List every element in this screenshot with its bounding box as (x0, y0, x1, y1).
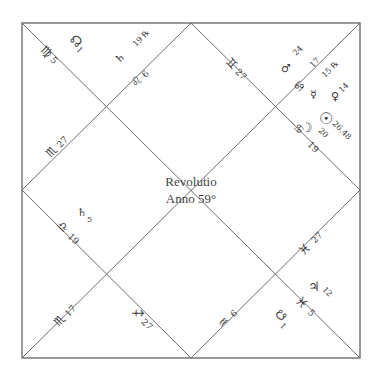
svg-text:15 ℞: 15 ℞ (320, 59, 340, 79)
cancer-cusp-degree: 17 (308, 56, 322, 70)
saturn-label: ♄ (112, 50, 128, 66)
svg-text:19: 19 (66, 231, 81, 246)
astrological-chart: Revolutio Anno 59° ☊ 1 ♍ 5 ♄ 19 ℞ ♌ 6 ♊ … (0, 0, 380, 377)
north-node-label: ☊ 1 (66, 32, 89, 55)
saturn-2-degree: 5 (87, 215, 92, 224)
svg-text:19: 19 (305, 139, 320, 154)
svg-text:14: 14 (337, 81, 351, 95)
saturn-icon: ♄ (77, 206, 87, 219)
libra-cusp-label: ♎ 19 (54, 218, 84, 248)
saturn-degree: 19 ℞ (131, 28, 151, 48)
svg-text:17: 17 (63, 303, 78, 318)
aquarius-cusp-label: ♒ 6 (215, 306, 240, 331)
pisces-cusp-2-label: ♓ 5 (292, 293, 319, 320)
jupiter-icon: ♃ (308, 279, 320, 294)
sagittarius-cusp-label: ♐ 27 (129, 305, 157, 333)
svg-text:12: 12 (321, 285, 335, 299)
svg-text:19 ℞: 19 ℞ (131, 28, 151, 48)
chart-title-line2: Anno 59° (166, 191, 216, 206)
svg-text:27: 27 (309, 230, 324, 245)
sun-degree: 26.48 (331, 119, 354, 142)
south-node-icon: ☋ (272, 307, 289, 324)
jupiter-degree: 12 (321, 285, 335, 299)
mars-degree: 24 (291, 44, 305, 58)
svg-text:24: 24 (291, 44, 305, 58)
aquarius-icon: ♒ (215, 314, 233, 332)
svg-text:6: 6 (228, 308, 239, 319)
pisces-icon: ♓ (295, 240, 314, 259)
cancer-icon: ♋ (291, 78, 309, 96)
cancer-cusp-2-degree: 19 (305, 139, 320, 154)
saturn-icon: ♄ (112, 50, 128, 66)
pisces-icon: ♓ (292, 293, 311, 312)
svg-text:27: 27 (55, 134, 70, 149)
svg-text:27: 27 (233, 67, 248, 82)
moon-degree: 20 (317, 126, 331, 140)
virgo-cusp-label: ♍ 5 (38, 43, 62, 67)
leo-cusp-label: ♌ 6 (128, 66, 152, 90)
svg-text:17: 17 (308, 56, 322, 70)
mercury-icon: ☿ (310, 88, 317, 101)
pisces-cusp-label: ♓ 27 (295, 228, 326, 259)
libra-icon: ♎ (54, 218, 72, 236)
mercury-degree: 15 ℞ (320, 59, 340, 79)
mars-icon: ♂ (281, 62, 291, 75)
svg-text:6: 6 (140, 68, 151, 79)
venus-icon: ♀ (331, 90, 339, 103)
svg-text:26.48: 26.48 (331, 119, 354, 142)
svg-text:5: 5 (306, 307, 317, 318)
svg-text:20: 20 (317, 126, 331, 140)
svg-text:5: 5 (48, 55, 59, 66)
chart-title-line1: Revolutio (165, 174, 216, 189)
cancer-cusp-label: ♋ (291, 78, 309, 96)
south-node-label: ☋ 1 (270, 307, 294, 331)
venus-degree: 14 (337, 81, 351, 95)
